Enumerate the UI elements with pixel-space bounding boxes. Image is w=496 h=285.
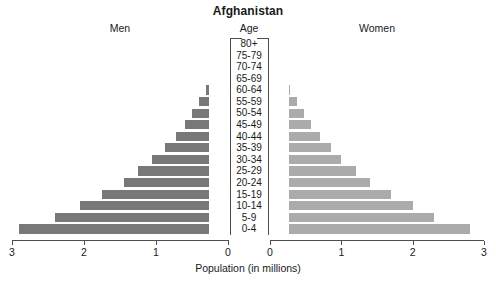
age-column-top-right-serif [257, 38, 269, 39]
x-tick-left-3-label: 3 [2, 246, 22, 258]
plot-area: 80+75-7970-7465-6960-6455-5950-5445-4940… [0, 38, 496, 235]
age-column-header: Age [209, 22, 289, 34]
age-group-label: 35-39 [209, 142, 289, 154]
x-tick-right-2-label: 2 [403, 246, 423, 258]
x-tick-left-2-label: 2 [74, 246, 94, 258]
pyramid-row: 0-4 [0, 223, 496, 235]
age-group-label: 45-49 [209, 119, 289, 131]
age-group-label: 15-19 [209, 189, 289, 201]
x-tick-right-1-label: 1 [331, 246, 351, 258]
x-tick-left-3-mark [12, 241, 13, 245]
x-tick-right-0-label: 0 [260, 246, 280, 258]
x-tick-right-2-mark [413, 241, 414, 245]
pyramid-row: 80+ [0, 38, 496, 50]
pyramid-row: 5-9 [0, 212, 496, 224]
pyramid-row: 35-39 [0, 142, 496, 154]
age-group-label: 80+ [209, 38, 289, 50]
pyramid-row: 20-24 [0, 177, 496, 189]
age-group-label: 70-74 [209, 61, 289, 73]
female-bar [270, 201, 413, 210]
x-tick-right-3-mark [484, 241, 485, 245]
female-bar [270, 213, 434, 222]
female-bar [270, 224, 470, 233]
pyramid-row: 60-64 [0, 84, 496, 96]
x-axis-line-left [12, 240, 229, 241]
age-group-label: 40-44 [209, 131, 289, 143]
x-tick-left-2-mark [84, 241, 85, 245]
x-tick-left-1-mark [156, 241, 157, 245]
pyramid-row: 30-34 [0, 154, 496, 166]
x-tick-right-0-mark [270, 241, 271, 245]
age-group-label: 55-59 [209, 96, 289, 108]
age-column-top-left-serif [230, 38, 242, 39]
age-group-label: 25-29 [209, 165, 289, 177]
age-group-label: 60-64 [209, 84, 289, 96]
pyramid-row: 70-74 [0, 61, 496, 73]
age-group-label: 10-14 [209, 200, 289, 212]
pyramid-row: 50-54 [0, 107, 496, 119]
population-pyramid-chart: Afghanistan Men Age Women 80+75-7970-746… [0, 0, 496, 285]
age-group-label: 0-4 [209, 223, 289, 235]
x-tick-left-1-label: 1 [146, 246, 166, 258]
pyramid-row: 15-19 [0, 189, 496, 201]
male-bar [80, 201, 228, 210]
x-axis-line-right [270, 240, 484, 241]
x-tick-right-1-mark [341, 241, 342, 245]
x-tick-left-0-label: 0 [218, 246, 238, 258]
chart-title: Afghanistan [0, 4, 496, 18]
pyramid-row: 25-29 [0, 165, 496, 177]
pyramid-row: 40-44 [0, 131, 496, 143]
pyramid-row: 10-14 [0, 200, 496, 212]
age-group-label: 75-79 [209, 50, 289, 62]
age-group-label: 65-69 [209, 73, 289, 85]
pyramid-row: 75-79 [0, 50, 496, 62]
pyramid-row: 45-49 [0, 119, 496, 131]
age-column-left-rule [230, 38, 231, 235]
men-side-label: Men [80, 22, 160, 34]
bar-rows: 80+75-7970-7465-6960-6455-5950-5445-4940… [0, 38, 496, 235]
age-group-label: 50-54 [209, 107, 289, 119]
age-group-label: 20-24 [209, 177, 289, 189]
x-axis-title: Population (in millions) [0, 262, 496, 274]
age-group-label: 5-9 [209, 212, 289, 224]
male-bar [19, 224, 228, 233]
pyramid-row: 55-59 [0, 96, 496, 108]
women-side-label: Women [337, 22, 417, 34]
age-column-right-rule [268, 38, 269, 235]
x-tick-left-0-mark [228, 241, 229, 245]
x-tick-right-3-label: 3 [474, 246, 494, 258]
pyramid-row: 65-69 [0, 73, 496, 85]
male-bar [55, 213, 228, 222]
age-group-label: 30-34 [209, 154, 289, 166]
